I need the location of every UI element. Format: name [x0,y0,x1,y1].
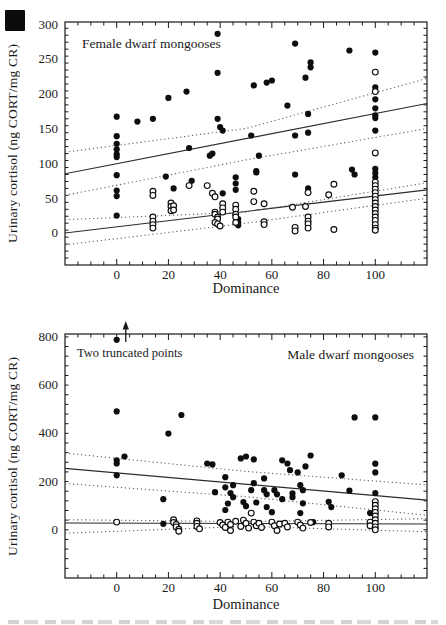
y-tick-label: 200 [39,474,59,489]
data-point-open [176,528,182,534]
y-tick-label: 150 [39,121,59,136]
y-tick-label: 0 [52,522,59,537]
data-point-open [372,227,378,233]
data-point-filled [243,503,249,509]
data-point-filled [114,337,120,343]
data-point-open [114,519,120,525]
data-point-filled [160,521,166,527]
truncation-arrow-head [123,321,129,330]
data-point-filled [222,507,228,513]
x-tick-label: 100 [366,580,386,595]
data-point-filled [279,496,285,502]
data-point-open [246,525,252,531]
data-point-open [251,199,257,205]
x-axis-label: Dominance [65,596,427,613]
data-point-filled [292,132,298,138]
data-point-open [285,524,291,530]
data-point-filled [114,460,120,466]
data-point-filled [284,103,290,109]
y-axis-label: Urinary cortisol (ng CORT/mg CR) [5,331,21,581]
truncated-points-annotation: Two truncated points [77,346,182,361]
data-point-filled [302,463,308,469]
data-point-filled [305,130,311,136]
data-point-open [305,190,311,196]
data-point-filled [186,145,192,151]
data-point-filled [339,472,345,478]
y-tick-label: 250 [39,51,59,66]
data-point-filled [114,114,120,120]
data-point-filled [352,171,358,177]
data-point-open [220,209,226,215]
data-point-filled [264,491,270,497]
data-point-filled [302,75,308,81]
data-point-filled [163,174,169,180]
data-point-open [372,69,378,75]
data-point-filled [372,115,378,121]
panel-title-male: Male dwarf mongooses [287,347,414,363]
data-point-filled [292,41,298,47]
data-point-open [259,525,265,531]
y-tick-label: 600 [39,377,59,392]
data-point-open [228,528,234,534]
data-point-open [300,525,306,531]
data-point-filled [243,453,249,459]
data-point-filled [308,64,314,70]
data-point-filled [114,172,120,178]
y-tick-label: 200 [39,86,59,101]
male-chart-panel: 0204060801000200400600800 Urinary cortis… [0,313,446,625]
y-tick-label: 800 [39,329,59,344]
data-point-filled [225,500,231,506]
data-point-filled [289,494,295,500]
data-point-filled [222,484,228,490]
data-point-filled [222,474,228,480]
data-point-filled [248,132,254,138]
data-point-filled [328,504,334,510]
data-point-open [274,528,280,534]
data-point-filled [256,153,262,159]
data-point-open [150,193,156,199]
data-point-filled [352,414,358,420]
data-point-filled [233,174,239,180]
data-point-filled [165,431,171,437]
data-point-filled [209,461,215,467]
cutoff-caption-text [8,620,438,624]
data-point-open [251,188,257,194]
data-point-filled [215,116,221,122]
data-point-filled [372,105,378,111]
data-point-filled [300,487,306,493]
data-point-filled [212,489,218,495]
x-tick-label: 20 [162,580,175,595]
data-point-filled [253,499,259,505]
data-point-filled [114,141,120,147]
data-point-filled [372,50,378,56]
data-point-filled [230,482,236,488]
x-tick-label: 0 [113,580,120,595]
data-point-filled [372,469,378,475]
x-tick-label: 60 [265,580,278,595]
data-point-filled [253,169,259,175]
data-point-filled [261,475,267,481]
data-point-filled [134,119,140,125]
data-point-filled [204,460,210,466]
data-point-filled [295,469,301,475]
data-point-filled [233,180,239,186]
data-point-filled [114,213,120,219]
data-point-filled [183,89,189,95]
data-point-open [186,183,192,189]
data-point-filled [269,77,275,83]
data-point-open [326,192,332,198]
data-point-open [150,225,156,231]
data-point-filled [121,453,127,459]
y-tick-label: 50 [45,191,58,206]
data-point-filled [372,490,378,496]
data-point-filled [160,496,166,502]
data-point-open [372,527,378,533]
data-point-open [204,183,210,189]
data-point-open [217,223,223,229]
data-point-open [331,181,337,187]
data-point-filled [220,190,226,196]
data-point-open [171,207,177,213]
data-point-filled [215,70,221,76]
data-point-open [326,524,332,530]
data-point-open [372,150,378,156]
